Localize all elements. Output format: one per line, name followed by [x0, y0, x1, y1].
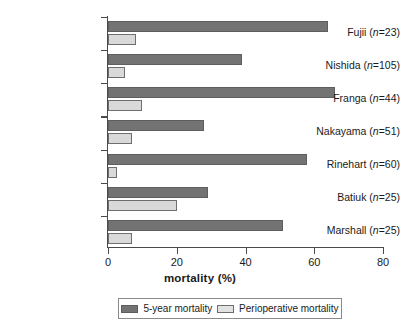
bar-five-year-mortality	[108, 21, 328, 32]
x-axis-tick-label: 40	[226, 256, 266, 268]
x-axis-tick	[246, 248, 247, 254]
category-label: Fujii (n=23)	[300, 26, 400, 38]
bar-perioperative-mortality	[108, 200, 177, 211]
y-axis-tick	[101, 17, 108, 18]
y-axis-tick	[101, 183, 108, 184]
bar-five-year-mortality	[108, 220, 283, 231]
x-axis-title-text: mortality (%)	[164, 272, 236, 284]
bar-five-year-mortality	[108, 120, 204, 131]
y-axis-tick	[101, 83, 108, 84]
category-label: Rinehart (n=60)	[300, 158, 400, 170]
category-label: Nishida (n=105)	[300, 59, 400, 71]
x-axis-tick	[177, 248, 178, 254]
x-axis-tick	[383, 248, 384, 254]
bar-perioperative-mortality	[108, 34, 136, 45]
y-axis-tick	[101, 216, 108, 217]
x-axis-tick-label: 80	[363, 256, 400, 268]
category-label: Nakayama (n=51)	[300, 125, 400, 137]
x-axis-tick-label: 0	[88, 256, 128, 268]
y-axis-tick	[101, 50, 108, 51]
bar-five-year-mortality	[108, 154, 307, 165]
legend-item-perioperative-mortality: Perioperative mortality	[217, 303, 338, 314]
category-label: Franga (n=44)	[300, 92, 400, 104]
y-axis-tick	[101, 116, 108, 117]
bar-perioperative-mortality	[108, 133, 132, 144]
category-label: Batiuk (n=25)	[300, 191, 400, 203]
x-axis-title: mortality (%)	[0, 272, 400, 284]
category-label: Marshall (n=25)	[300, 224, 400, 236]
bar-perioperative-mortality	[108, 167, 117, 178]
bar-perioperative-mortality	[108, 233, 132, 244]
x-axis-tick-label: 20	[157, 256, 197, 268]
bar-chart-figure: 020406080 Fujii (n=23)Nishida (n=105)Fra…	[0, 0, 400, 331]
legend-label-5-year-mortality: 5-year mortality	[143, 303, 212, 314]
legend-item-5-year-mortality: 5-year mortality	[121, 303, 212, 314]
bar-five-year-mortality	[108, 54, 242, 65]
x-axis-tick	[314, 248, 315, 254]
x-axis-tick	[108, 248, 109, 254]
legend-label-perioperative-mortality: Perioperative mortality	[239, 303, 338, 314]
y-axis-tick	[101, 150, 108, 151]
bar-five-year-mortality	[108, 187, 208, 198]
chart-legend: 5-year mortality Perioperative mortality	[118, 298, 342, 319]
bar-perioperative-mortality	[108, 100, 142, 111]
legend-swatch-light	[217, 305, 234, 313]
x-axis-tick-label: 60	[294, 256, 334, 268]
legend-swatch-dark	[121, 305, 138, 313]
bar-perioperative-mortality	[108, 67, 125, 78]
